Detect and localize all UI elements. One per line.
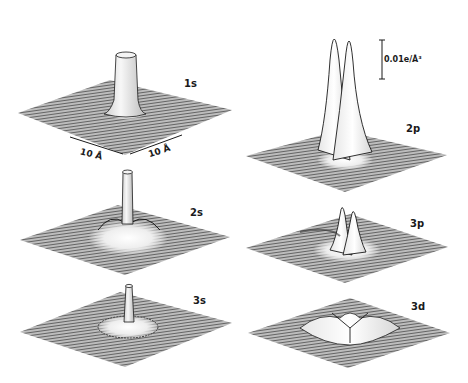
panel-2s: [20, 170, 230, 275]
label-2p: 2p: [406, 123, 420, 134]
label-2s: 2s: [190, 207, 203, 218]
label-3d: 3d: [411, 301, 425, 312]
label-3s: 3s: [193, 295, 206, 306]
peak-cap: [116, 52, 136, 58]
density-peak: [124, 286, 134, 322]
label-1s: 1s: [184, 78, 197, 89]
density-peak: [122, 172, 133, 224]
peak-cap: [126, 284, 133, 287]
peak-cap: [123, 170, 133, 174]
scale-bar-label: 0.01e/Å³: [384, 55, 422, 64]
label-3p: 3p: [410, 218, 424, 229]
panel-1s: [18, 52, 232, 155]
